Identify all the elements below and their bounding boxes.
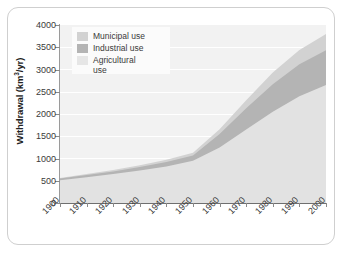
x-tick-mark-1950 bbox=[193, 203, 194, 207]
x-tick-mark-1980 bbox=[273, 203, 274, 207]
municipal-swatch bbox=[77, 32, 88, 41]
industrial-swatch bbox=[77, 44, 88, 53]
y-tick-label-4000: 4000 bbox=[22, 20, 56, 30]
agricultural-swatch bbox=[77, 56, 88, 65]
stacked-area-chart: Withdrawal (km3/yr) 05001000150020002500… bbox=[0, 0, 344, 255]
legend-label-agricultural: Agricultural use bbox=[93, 55, 136, 75]
x-tick-mark-1930 bbox=[140, 203, 141, 207]
y-tick-label-2500: 2500 bbox=[22, 87, 56, 97]
legend-label-municipal: Municipal use bbox=[93, 31, 145, 41]
legend-item-agricultural: Agricultural use bbox=[77, 55, 136, 67]
y-tick-label-1000: 1000 bbox=[22, 154, 56, 164]
x-tick-mark-1970 bbox=[246, 203, 247, 207]
legend-item-industrial: Industrial use bbox=[77, 43, 144, 55]
legend-label-industrial: Industrial use bbox=[93, 43, 144, 53]
x-tick-mark-1940 bbox=[166, 203, 167, 207]
x-tick-mark-2000 bbox=[326, 203, 327, 207]
x-tick-mark-1910 bbox=[87, 203, 88, 207]
y-tick-label-2000: 2000 bbox=[22, 109, 56, 119]
chart-legend: Municipal use Industrial use Agricultura… bbox=[72, 27, 170, 74]
x-tick-mark-1920 bbox=[113, 203, 114, 207]
x-tick-mark-1900 bbox=[60, 203, 61, 207]
y-tick-label-1500: 1500 bbox=[22, 131, 56, 141]
y-tick-label-500: 500 bbox=[22, 176, 56, 186]
legend-item-municipal: Municipal use bbox=[77, 31, 145, 43]
y-tick-label-3000: 3000 bbox=[22, 65, 56, 75]
x-tick-mark-1990 bbox=[299, 203, 300, 207]
x-tick-mark-1960 bbox=[220, 203, 221, 207]
y-tick-label-3500: 3500 bbox=[22, 42, 56, 52]
